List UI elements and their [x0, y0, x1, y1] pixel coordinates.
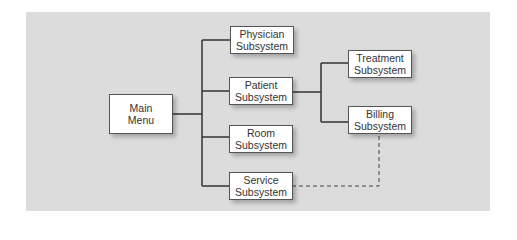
- node-label-line1: Treatment: [356, 52, 403, 64]
- edge-service-billing-dashed: [292, 133, 379, 186]
- node-label-line2: Subsystem: [235, 186, 287, 198]
- node-label-line2: Subsystem: [235, 139, 287, 151]
- node-label-line2: Subsystem: [236, 40, 288, 52]
- node-label-line1: Physician: [240, 28, 285, 40]
- node-service-subsystem: Service Subsystem: [229, 172, 293, 200]
- node-patient-subsystem: Patient Subsystem: [229, 77, 293, 105]
- node-label-line2: Subsystem: [235, 91, 287, 103]
- node-room-subsystem: Room Subsystem: [229, 125, 293, 153]
- node-label-line2: Menu: [128, 114, 154, 126]
- node-billing-subsystem: Billing Subsystem: [348, 106, 412, 134]
- node-treatment-subsystem: Treatment Subsystem: [348, 50, 412, 78]
- node-label-line1: Main: [130, 102, 153, 114]
- node-label-line1: Billing: [366, 108, 394, 120]
- node-label-line1: Patient: [245, 79, 278, 91]
- node-main-menu: Main Menu: [109, 94, 173, 134]
- node-label-line1: Service: [243, 174, 278, 186]
- node-physician-subsystem: Physician Subsystem: [230, 26, 294, 54]
- node-label-line2: Subsystem: [354, 120, 406, 132]
- node-label-line2: Subsystem: [354, 64, 406, 76]
- node-label-line1: Room: [247, 127, 275, 139]
